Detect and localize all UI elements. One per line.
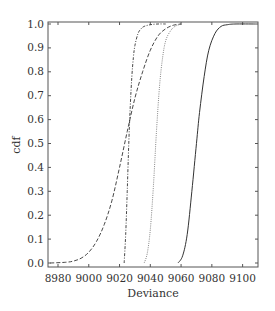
x-tick-label: 9040 xyxy=(137,272,164,284)
y-tick-label: 0.1 xyxy=(27,233,44,245)
series-lines xyxy=(50,24,255,263)
y-tick-label: 0.6 xyxy=(27,113,44,125)
x-tick-label: 9000 xyxy=(75,272,102,284)
y-axis-label: cdf xyxy=(10,135,23,153)
plot-border xyxy=(48,22,258,267)
y-tick-label: 0.0 xyxy=(27,257,44,269)
cdf-chart: 8980900090209040906090809100 0.00.10.20.… xyxy=(0,0,275,311)
y-tick-label: 0.8 xyxy=(27,65,44,77)
y-tick-label: 0.5 xyxy=(27,137,44,149)
y-tick-label: 0.9 xyxy=(27,41,44,53)
series-line-dashdot xyxy=(124,24,166,263)
x-tick-label: 9080 xyxy=(198,272,225,284)
plot-frame xyxy=(48,22,258,267)
series-line-dashed xyxy=(50,24,181,263)
y-axis-ticks: 0.00.10.20.30.40.50.60.70.80.91.0 xyxy=(27,18,258,269)
y-tick-label: 0.3 xyxy=(27,185,44,197)
series-line-dotted xyxy=(144,24,181,263)
x-axis-ticks: 8980900090209040906090809100 xyxy=(45,22,256,284)
y-tick-label: 0.4 xyxy=(27,161,44,173)
x-tick-label: 9100 xyxy=(229,272,256,284)
y-tick-label: 0.2 xyxy=(27,209,44,221)
series-line-solid xyxy=(178,24,255,263)
y-tick-label: 0.7 xyxy=(27,89,44,101)
x-tick-label: 9020 xyxy=(106,272,133,284)
x-tick-label: 8980 xyxy=(45,272,72,284)
x-axis-label: Deviance xyxy=(127,287,178,300)
y-tick-label: 1.0 xyxy=(27,18,44,30)
x-tick-label: 9060 xyxy=(168,272,195,284)
